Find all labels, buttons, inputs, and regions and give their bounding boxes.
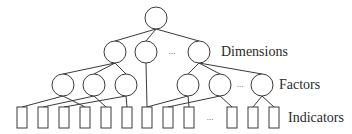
indicators-label: Indicators (288, 110, 344, 125)
indicator-node-i8 (163, 107, 173, 128)
hierarchy-diagram: ......... Dimensions Factors Indicators (0, 0, 352, 134)
factor-node-f6 (251, 74, 273, 96)
dimension-node-d2 (135, 41, 157, 63)
indicators-ellipsis: ... (207, 112, 214, 122)
indicator-node-i1 (17, 107, 27, 128)
edge-d1-f1 (63, 63, 115, 74)
edge-root-d1 (115, 29, 156, 41)
edge-f4-i7 (147, 96, 188, 107)
edge-f6-i11 (253, 96, 262, 107)
factor-node-f2 (83, 74, 105, 96)
edge-d1-f3 (115, 63, 126, 74)
dimension-node-d3 (188, 41, 210, 63)
factor-node-f5 (209, 74, 231, 96)
indicator-node-i5 (101, 107, 111, 128)
edge-d2-i7 (146, 63, 147, 107)
edge-d3-f4 (188, 63, 199, 74)
edge-f2-i2 (43, 96, 94, 107)
edge-root-d3 (156, 29, 199, 41)
indicator-node-i12 (269, 107, 279, 128)
edge-f6-i12 (262, 96, 274, 107)
indicator-node-i6 (122, 107, 132, 128)
indicator-node-i4 (80, 107, 90, 128)
indicator-node-i11 (248, 107, 258, 128)
nodes (17, 7, 279, 128)
dimensions-ellipsis: ... (169, 46, 176, 56)
factor-node-f4 (177, 74, 199, 96)
dimensions-label: Dimensions (221, 44, 288, 59)
edge-f3-i6 (126, 96, 127, 107)
edge-f1-i1 (22, 96, 63, 107)
indicator-node-i9 (184, 107, 194, 128)
indicator-node-i2 (38, 107, 48, 128)
factors-label: Factors (279, 77, 320, 92)
edge-f4-i9 (188, 96, 189, 107)
root-node (145, 7, 167, 29)
factors-ellipsis: ... (237, 79, 244, 89)
dimension-node-d1 (104, 41, 126, 63)
indicator-node-i10 (227, 107, 237, 128)
edge-f5-i10 (220, 96, 232, 107)
edge-d1-f2 (94, 63, 115, 74)
indicator-node-i7 (142, 107, 152, 128)
factor-node-f1 (52, 74, 74, 96)
indicator-node-i3 (59, 107, 69, 128)
edge-f5-i8 (168, 96, 220, 107)
factor-node-f3 (115, 74, 137, 96)
